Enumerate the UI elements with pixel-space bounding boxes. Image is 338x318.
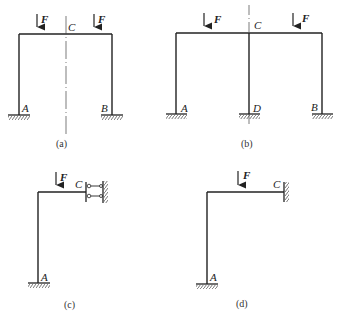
diagram-canvas: F F C A B (a) F F C xyxy=(0,0,338,318)
frame-c: F C A (c) xyxy=(28,171,108,311)
fixed-support-icon xyxy=(166,114,187,119)
figure-caption: (a) xyxy=(56,138,67,150)
load-label: F xyxy=(40,13,49,25)
node-label: B xyxy=(101,102,108,114)
node-label: D xyxy=(252,102,261,114)
frame-b: F F C A D B (b) xyxy=(166,5,333,150)
node-label: A xyxy=(209,271,217,283)
node-label: C xyxy=(75,178,83,190)
load-label: F xyxy=(213,13,222,25)
load-label: F xyxy=(242,169,251,181)
load-label: F xyxy=(59,171,68,183)
frame-d: F C A (d) xyxy=(196,169,289,310)
frame-a: F F C A B (a) xyxy=(8,13,123,150)
node-label: C xyxy=(273,178,281,190)
figure-caption: (d) xyxy=(236,298,248,310)
fixed-wall-support-icon xyxy=(284,182,289,202)
sliding-support-icon xyxy=(86,181,108,203)
figure-caption: (b) xyxy=(241,138,253,150)
load-label: F xyxy=(97,13,106,25)
load-label: F xyxy=(301,12,310,24)
figure-caption: (c) xyxy=(64,299,75,311)
node-label: A xyxy=(180,102,188,114)
node-label: A xyxy=(21,102,29,114)
fixed-support-icon xyxy=(239,114,260,119)
fixed-support-icon xyxy=(196,284,218,289)
node-label: B xyxy=(311,101,318,113)
node-label: A xyxy=(40,271,48,283)
fixed-support-icon xyxy=(312,114,333,119)
node-label: C xyxy=(68,21,76,33)
fixed-support-icon xyxy=(28,283,50,288)
fixed-support-icon xyxy=(101,115,123,120)
node-label: C xyxy=(254,19,262,31)
fixed-support-icon xyxy=(8,115,30,120)
